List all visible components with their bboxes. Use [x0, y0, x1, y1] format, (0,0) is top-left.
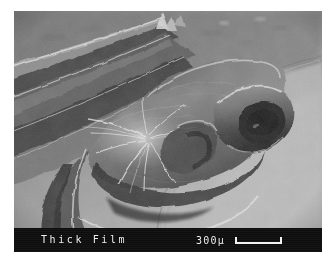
scale-bar-rule [235, 242, 282, 244]
vignette [14, 11, 322, 252]
figure-page: Thick Film 300µ wrinkled thick film dela… [0, 0, 334, 262]
micrograph-canvas [14, 11, 322, 252]
scale-bar [235, 237, 282, 244]
scale-group: 300µ [196, 232, 282, 248]
scale-bar-right-cap [280, 237, 282, 244]
specimen-label: Thick Film [41, 232, 127, 247]
scale-value-label: 300µ [196, 233, 225, 248]
sem-micrograph-image: Thick Film 300µ [14, 11, 322, 252]
annotation-bar: Thick Film 300µ [14, 228, 322, 252]
